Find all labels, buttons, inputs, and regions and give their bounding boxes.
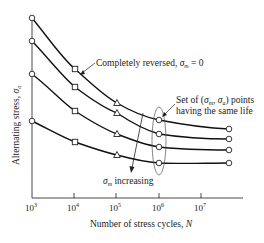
sn-diagram: 103 104 105 106 107 Number of stress cyc… [0,0,264,243]
circle-marker [156,131,162,137]
square-marker [72,108,77,113]
curve-sigma-m-4 [32,121,229,163]
square-marker [72,139,77,144]
svg-text:having the same life: having the same life [176,106,253,116]
svg-text:Set of (σm, σa) points: Set of (σm, σa) points [176,95,255,106]
y-axis-label: Alternating stress, σa [11,86,22,165]
square-marker [72,66,77,71]
annotation-sigma-m-increasing: σm increasing [103,113,154,187]
triangle-marker [114,100,121,106]
tick-label: 106 [152,202,164,213]
circle-marker [226,136,232,142]
circle-marker [29,71,35,77]
svg-text:Completely reversed, σm = 0: Completely reversed, σm = 0 [96,58,204,69]
tick-label: 104 [67,202,79,213]
curves [32,18,229,163]
arrowhead-icon [80,70,85,75]
x-axis-label: Number of stress cycles, N [90,219,193,229]
circle-marker [156,144,162,150]
tick-label: 107 [194,202,206,213]
x-tick-labels: 103 104 105 106 107 [25,202,206,213]
circle-marker [29,118,35,124]
circle-marker [226,126,232,132]
square-marker [72,84,77,89]
circle-marker [156,160,162,166]
leader-line [164,104,175,115]
svg-text:σm increasing: σm increasing [103,176,154,187]
markers [29,15,232,166]
leader-line [82,63,95,73]
annotation-completely-reversed: Completely reversed, σm = 0 [80,58,204,75]
circle-marker [29,15,35,21]
annotation-same-life: Set of (σm, σa) points having the same l… [162,95,255,117]
circle-marker [156,117,162,123]
circle-marker [29,38,35,44]
tick-label: 105 [109,202,121,213]
circle-marker [226,160,232,166]
arrowhead-icon [130,166,135,173]
tick-label: 103 [25,202,37,213]
circle-marker [226,147,232,153]
